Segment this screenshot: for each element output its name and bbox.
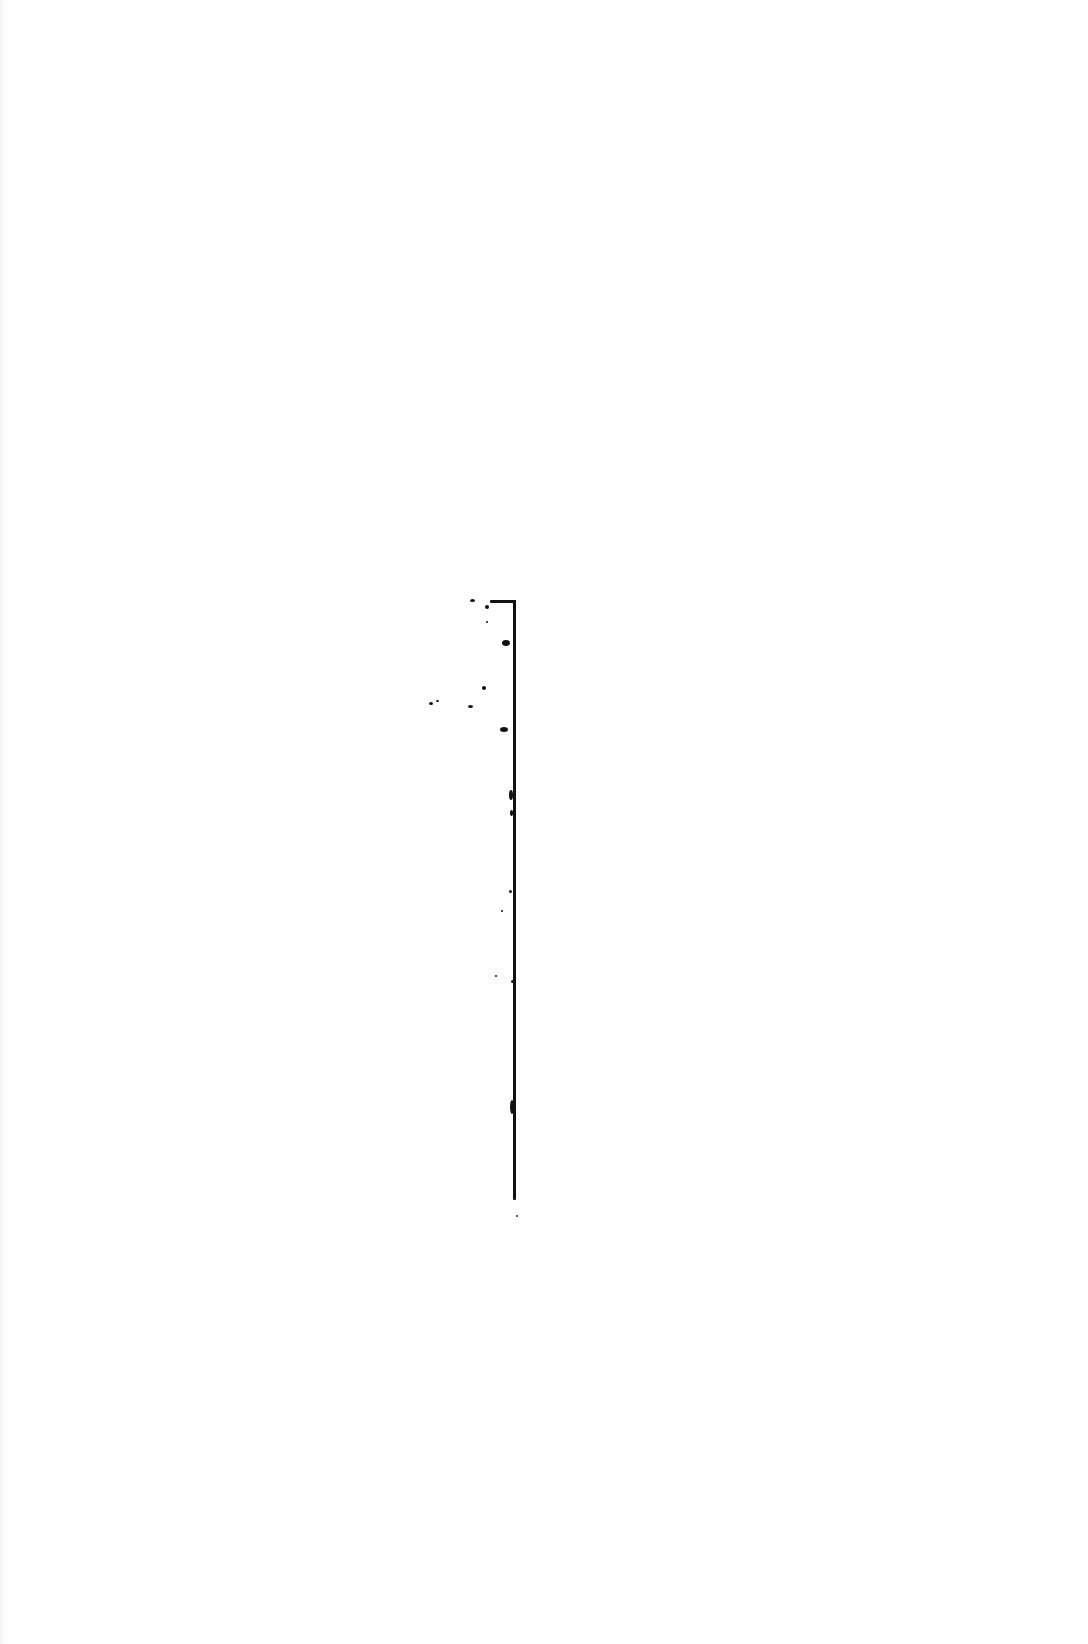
ink-speck bbox=[502, 640, 510, 646]
ink-speck bbox=[501, 910, 503, 912]
ink-speck bbox=[485, 605, 489, 609]
ink-speck bbox=[436, 700, 439, 702]
scanned-page bbox=[0, 0, 1088, 1644]
page-edge-shadow bbox=[0, 0, 6, 1644]
ink-speck bbox=[495, 975, 497, 977]
ink-speck bbox=[470, 599, 475, 602]
ink-speck bbox=[429, 702, 433, 705]
ink-speck bbox=[509, 790, 513, 800]
ink-speck bbox=[468, 705, 473, 708]
ink-speck bbox=[511, 980, 514, 983]
ink-speck bbox=[510, 1100, 514, 1114]
ink-speck bbox=[486, 621, 488, 623]
ink-speck bbox=[509, 890, 512, 893]
ink-speck bbox=[482, 686, 486, 690]
ink-speck bbox=[500, 727, 508, 732]
ink-speck bbox=[510, 810, 513, 816]
ink-speck bbox=[516, 1215, 518, 1217]
